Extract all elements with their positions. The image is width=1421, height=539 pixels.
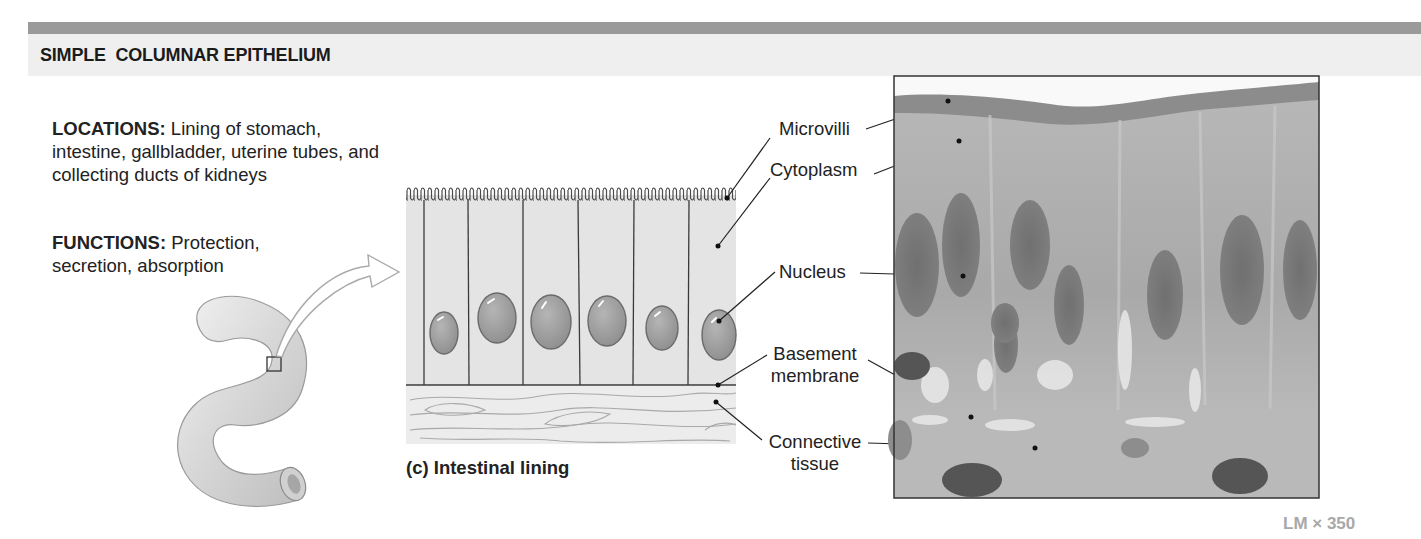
label-basement-line1: Basement xyxy=(769,343,861,365)
figure-caption: (c) Intestinal lining xyxy=(406,457,569,479)
label-basement-membrane: Basement membrane xyxy=(769,343,861,387)
micrograph-image xyxy=(888,76,1319,498)
label-cytoplasm: Cytoplasm xyxy=(770,159,857,181)
label-connective-line2: tissue xyxy=(764,453,866,475)
label-basement-line2: membrane xyxy=(769,365,861,387)
label-connective-tissue: Connective tissue xyxy=(764,431,866,475)
label-connective-line1: Connective xyxy=(764,431,866,453)
epithelium-illustration xyxy=(406,187,736,444)
label-nucleus: Nucleus xyxy=(779,261,846,283)
magnification-label: LM × 350 xyxy=(1283,514,1355,534)
label-microvilli: Microvilli xyxy=(779,118,850,140)
